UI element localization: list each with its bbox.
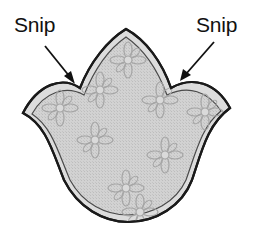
snip-label-right: Snip	[196, 14, 237, 35]
snip-label-left: Snip	[14, 14, 55, 35]
snip-arrow-left	[45, 46, 75, 84]
snip-arrow-right	[180, 42, 214, 81]
